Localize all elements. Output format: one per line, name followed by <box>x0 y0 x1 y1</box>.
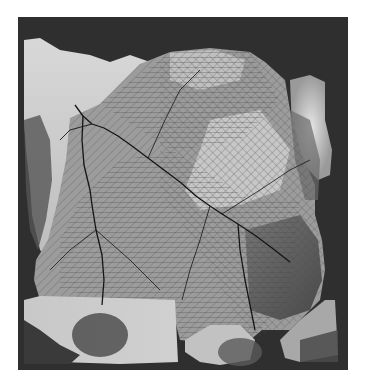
terrain-pit-southwest <box>72 313 128 357</box>
terrain-drainage-figure <box>0 0 366 387</box>
terrain-shade-south-center <box>218 338 262 366</box>
